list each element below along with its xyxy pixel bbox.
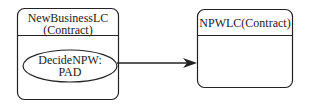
activity-label-line2: PAD bbox=[23, 66, 117, 78]
activity-label-decidenpw: DecideNPW: PAD bbox=[23, 54, 117, 78]
state-title-newbusinesslc: NewBusinessLC (Contract) bbox=[18, 12, 118, 36]
state-title-npwlc: NPWLC(Contract) bbox=[198, 17, 292, 29]
state-title-line2: (Contract) bbox=[18, 24, 118, 36]
